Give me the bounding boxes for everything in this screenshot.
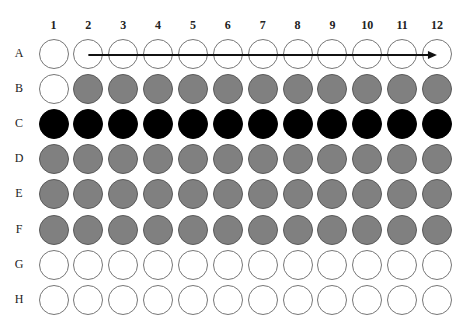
well-B5: [178, 74, 208, 104]
well-G2: [73, 250, 103, 280]
well-C4: [143, 109, 173, 139]
column-label-12: 12: [422, 18, 452, 33]
well-C2: [73, 109, 103, 139]
well-G4: [143, 250, 173, 280]
row-label-G: G: [9, 257, 29, 272]
well-F5: [178, 215, 208, 245]
well-H11: [387, 285, 417, 315]
well-F1: [39, 215, 69, 245]
column-label-11: 11: [387, 18, 417, 33]
well-B4: [143, 74, 173, 104]
well-B6: [213, 74, 243, 104]
well-F6: [213, 215, 243, 245]
well-F12: [422, 215, 452, 245]
well-G6: [213, 250, 243, 280]
well-F8: [283, 215, 313, 245]
row-label-C: C: [9, 116, 29, 131]
well-D6: [213, 144, 243, 174]
well-B12: [422, 74, 452, 104]
well-D7: [248, 144, 278, 174]
well-A6: [213, 39, 243, 69]
well-G9: [317, 250, 347, 280]
column-label-8: 8: [283, 18, 313, 33]
well-F4: [143, 215, 173, 245]
well-E5: [178, 179, 208, 209]
well-C3: [108, 109, 138, 139]
column-label-7: 7: [248, 18, 278, 33]
well-F7: [248, 215, 278, 245]
well-H8: [283, 285, 313, 315]
well-A3: [108, 39, 138, 69]
column-label-2: 2: [73, 18, 103, 33]
well-G7: [248, 250, 278, 280]
well-E4: [143, 179, 173, 209]
well-C9: [317, 109, 347, 139]
well-H3: [108, 285, 138, 315]
well-D10: [352, 144, 382, 174]
column-label-5: 5: [178, 18, 208, 33]
well-H5: [178, 285, 208, 315]
well-D3: [108, 144, 138, 174]
well-C12: [422, 109, 452, 139]
well-F10: [352, 215, 382, 245]
well-E11: [387, 179, 417, 209]
well-E1: [39, 179, 69, 209]
well-E2: [73, 179, 103, 209]
well-F2: [73, 215, 103, 245]
row-label-F: F: [9, 222, 29, 237]
row-label-H: H: [9, 292, 29, 307]
well-A10: [352, 39, 382, 69]
well-G12: [422, 250, 452, 280]
well-A4: [143, 39, 173, 69]
well-G10: [352, 250, 382, 280]
well-B1: [39, 74, 69, 104]
well-B9: [317, 74, 347, 104]
column-label-6: 6: [213, 18, 243, 33]
well-F11: [387, 215, 417, 245]
well-H12: [422, 285, 452, 315]
well-C6: [213, 109, 243, 139]
well-C7: [248, 109, 278, 139]
well-H2: [73, 285, 103, 315]
well-A1: [39, 39, 69, 69]
column-label-10: 10: [352, 18, 382, 33]
well-E8: [283, 179, 313, 209]
well-A9: [317, 39, 347, 69]
column-label-9: 9: [317, 18, 347, 33]
well-G11: [387, 250, 417, 280]
row-label-A: A: [9, 46, 29, 61]
well-C8: [283, 109, 313, 139]
well-A11: [387, 39, 417, 69]
well-G5: [178, 250, 208, 280]
well-E6: [213, 179, 243, 209]
row-label-D: D: [9, 151, 29, 166]
well-F3: [108, 215, 138, 245]
well-E12: [422, 179, 452, 209]
well-D12: [422, 144, 452, 174]
well-C10: [352, 109, 382, 139]
96-well-plate-diagram: 123456789101112ABCDEFGH: [0, 0, 470, 335]
well-E9: [317, 179, 347, 209]
well-E3: [108, 179, 138, 209]
well-A8: [283, 39, 313, 69]
well-A12: [422, 39, 452, 69]
well-C1: [39, 109, 69, 139]
well-D11: [387, 144, 417, 174]
well-B7: [248, 74, 278, 104]
well-G8: [283, 250, 313, 280]
well-B11: [387, 74, 417, 104]
well-D5: [178, 144, 208, 174]
well-F9: [317, 215, 347, 245]
well-C11: [387, 109, 417, 139]
well-H6: [213, 285, 243, 315]
well-B3: [108, 74, 138, 104]
well-C5: [178, 109, 208, 139]
well-A5: [178, 39, 208, 69]
well-B2: [73, 74, 103, 104]
column-label-3: 3: [108, 18, 138, 33]
well-B10: [352, 74, 382, 104]
well-H1: [39, 285, 69, 315]
well-E10: [352, 179, 382, 209]
well-G1: [39, 250, 69, 280]
row-label-E: E: [9, 186, 29, 201]
